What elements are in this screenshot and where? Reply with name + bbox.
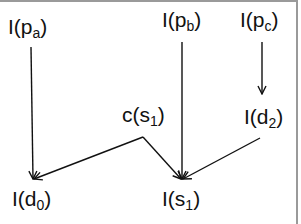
edge-pa-d0 <box>31 47 33 179</box>
node-I-pb: I(pb) <box>162 9 201 30</box>
node-prefix: I(d <box>244 105 269 128</box>
node-prefix: I(p <box>240 8 265 31</box>
node-suffix: ) <box>276 105 283 128</box>
node-suffix: ) <box>272 8 279 31</box>
node-prefix: I(s <box>162 187 185 210</box>
node-c-s1: c(s1) <box>122 104 165 125</box>
node-I-pa: I(pa) <box>8 16 47 37</box>
node-I-d0: I(d0) <box>12 188 51 209</box>
node-suffix: ) <box>158 103 165 126</box>
node-subscript: 1 <box>185 197 193 213</box>
node-prefix: I(p <box>8 15 33 38</box>
node-prefix: I(p <box>162 8 187 31</box>
node-suffix: ) <box>193 187 200 210</box>
node-suffix: ) <box>194 8 201 31</box>
edge-cs1-s1 <box>143 137 181 179</box>
node-suffix: ) <box>40 15 47 38</box>
node-I-s1: I(s1) <box>162 188 200 209</box>
node-suffix: ) <box>44 187 51 210</box>
node-subscript: 1 <box>150 113 158 129</box>
edge-d2-s1 <box>183 138 260 179</box>
node-subscript: c <box>265 18 272 34</box>
node-prefix: c(s <box>122 103 150 126</box>
edge-cs1-d0 <box>34 137 143 179</box>
node-prefix: I(d <box>12 187 37 210</box>
node-I-d2: I(d2) <box>244 106 283 127</box>
node-I-pc: I(pc) <box>240 9 279 30</box>
